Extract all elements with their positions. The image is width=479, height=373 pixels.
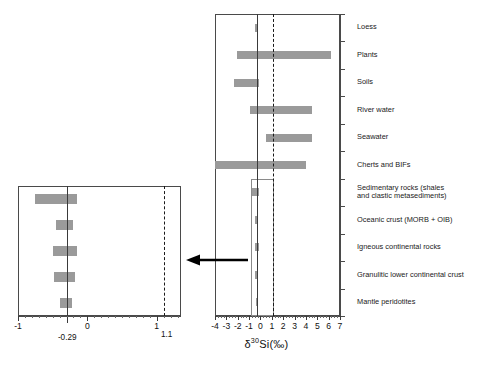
main-bar <box>237 51 331 59</box>
main-major-tick <box>340 316 341 320</box>
main-minor-tick <box>292 316 293 318</box>
category-tick <box>340 124 345 125</box>
category-label: Oceanic crust (MORB + OIB) <box>357 216 452 225</box>
solid-reference-marker <box>67 317 68 323</box>
main-minor-tick <box>303 316 304 318</box>
mass-number: 30 <box>251 336 259 345</box>
main-chart-panel <box>215 14 340 316</box>
main-minor-tick <box>334 316 335 318</box>
inset-minor-tick <box>73 316 74 318</box>
main-minor-tick <box>280 316 281 318</box>
main-minor-tick <box>266 316 267 318</box>
category-tick <box>340 206 345 207</box>
main-minor-tick <box>241 316 242 318</box>
main-major-tick <box>283 316 284 320</box>
inset-dashed-reference-line <box>164 186 165 316</box>
inset-minor-tick <box>108 316 109 318</box>
axis-title-rest: Si(‰) <box>259 338 288 350</box>
main-minor-tick <box>252 316 253 318</box>
x-axis-title: δ30Si(‰) <box>245 336 289 350</box>
category-label: Mantle peridotites <box>357 298 415 307</box>
main-minor-tick <box>300 316 301 318</box>
inset-minor-tick <box>101 316 102 318</box>
main-minor-tick <box>326 316 327 318</box>
category-tick <box>340 261 345 262</box>
main-minor-tick <box>337 316 338 318</box>
inset-minor-tick <box>60 316 61 318</box>
inset-bar <box>56 220 73 230</box>
inset-bar <box>60 298 72 308</box>
main-major-tick <box>260 316 261 320</box>
inset-minor-tick <box>150 316 151 318</box>
main-minor-tick <box>275 316 276 318</box>
main-minor-tick <box>246 316 247 318</box>
main-major-tick <box>226 316 227 320</box>
main-minor-tick <box>235 316 236 318</box>
inset-minor-tick <box>80 316 81 318</box>
category-label: Igneous continental rocks <box>357 243 441 252</box>
inset-minor-tick <box>129 316 130 318</box>
category-axis-spine <box>340 14 341 316</box>
inset-chart-panel <box>18 186 181 316</box>
category-tick <box>340 179 345 180</box>
inset-x-tick-label: -1 <box>8 321 28 331</box>
inset-bar <box>35 194 77 204</box>
inset-solid-reference-line <box>67 186 68 316</box>
main-minor-tick <box>286 316 287 318</box>
category-label: Plants <box>357 51 378 60</box>
main-bar <box>215 161 306 169</box>
category-tick <box>340 234 345 235</box>
main-minor-tick <box>218 316 219 318</box>
main-minor-tick <box>229 316 230 318</box>
main-major-tick <box>306 316 307 320</box>
inset-minor-tick <box>94 316 95 318</box>
main-major-tick <box>215 316 216 320</box>
main-minor-tick <box>278 316 279 318</box>
category-label: Loess <box>357 23 377 32</box>
main-minor-tick <box>297 316 298 318</box>
inset-minor-tick <box>32 316 33 318</box>
main-major-tick <box>317 316 318 320</box>
category-tick <box>340 41 345 42</box>
main-bar <box>250 106 312 114</box>
main-x-tick-label: 7 <box>330 321 350 331</box>
inset-major-tick <box>18 316 19 321</box>
main-major-tick <box>249 316 250 320</box>
category-label: Sedimentary rocks (shales and clastic me… <box>357 184 447 201</box>
main-minor-tick <box>224 316 225 318</box>
inset-bar <box>53 246 77 256</box>
main-major-tick <box>272 316 273 320</box>
solid-reference-annotation: -0.29 <box>51 333 83 342</box>
inset-minor-tick <box>53 316 54 318</box>
main-minor-tick <box>258 316 259 318</box>
main-dashed-reference-line <box>273 14 274 316</box>
main-minor-tick <box>320 316 321 318</box>
dashed-reference-annotation: 1.1 <box>151 330 183 339</box>
category-tick <box>340 289 345 290</box>
inset-x-tick-label: 0 <box>77 321 97 331</box>
main-minor-tick <box>309 316 310 318</box>
category-tick <box>340 14 345 15</box>
category-tick <box>340 151 345 152</box>
category-label: Granulitic lower continental crust <box>357 271 464 280</box>
main-minor-tick <box>289 316 290 318</box>
main-minor-tick <box>331 316 332 318</box>
category-label: Soils <box>357 78 373 87</box>
inset-major-tick <box>157 316 158 321</box>
category-label: Seawater <box>357 133 388 142</box>
main-minor-tick <box>255 316 256 318</box>
category-tick <box>340 96 345 97</box>
main-minor-tick <box>243 316 244 318</box>
inset-minor-tick <box>171 316 172 318</box>
inset-bar <box>54 272 75 282</box>
inset-minor-tick <box>178 316 179 318</box>
main-minor-tick <box>312 316 313 318</box>
inset-minor-tick <box>164 316 165 318</box>
main-major-tick <box>295 316 296 320</box>
category-labels: LoessPlantsSoilsRiver waterSeawaterChert… <box>348 14 479 316</box>
main-major-tick <box>329 316 330 320</box>
inset-minor-tick <box>115 316 116 318</box>
inset-plot-area <box>18 186 181 316</box>
zoom-arrow-icon <box>186 254 248 266</box>
main-major-tick <box>238 316 239 320</box>
